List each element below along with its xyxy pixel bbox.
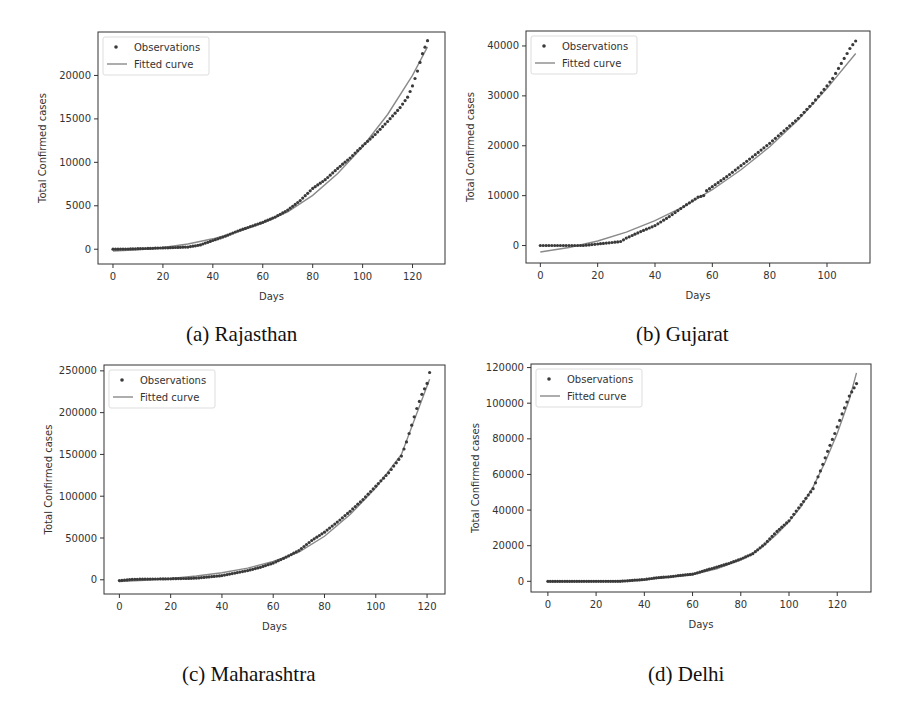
observation-point [344, 161, 347, 164]
observation-point [651, 225, 654, 228]
observation-point [539, 244, 542, 247]
chart-delhi: 0204060801001200200004000060000800001000… [450, 360, 900, 660]
observation-point [816, 475, 819, 478]
observation-point [748, 158, 751, 161]
observation-point [702, 194, 705, 197]
x-tick-label: 80 [734, 599, 747, 610]
observation-point [326, 176, 329, 179]
observation-point [708, 187, 711, 190]
observation-point [329, 174, 332, 177]
observation-point [768, 537, 771, 540]
observation-point [760, 149, 763, 152]
observation-point [415, 407, 418, 410]
observation-point [785, 521, 788, 524]
observation-point [599, 242, 602, 245]
observation-point [374, 485, 377, 488]
observation-point [326, 529, 329, 532]
y-axis-label: Total Confirmed cases [43, 425, 54, 536]
observation-point [343, 514, 346, 517]
y-tick-label: 0 [85, 244, 91, 255]
legend-fitted-curve-label: Fitted curve [140, 392, 199, 403]
observation-point [665, 217, 668, 220]
observation-point [354, 152, 357, 155]
observation-point [705, 189, 708, 192]
observation-point [642, 229, 645, 232]
observations-points [546, 382, 858, 583]
legend-observations-marker [114, 45, 118, 49]
observation-point [668, 215, 671, 218]
observation-point [851, 43, 854, 46]
observation-point [711, 185, 714, 188]
observation-point [797, 506, 800, 509]
observation-point [766, 540, 769, 543]
observation-point [819, 469, 822, 472]
observation-point [737, 166, 740, 169]
observation-point [837, 67, 840, 70]
observation-point [778, 528, 781, 531]
observation-point [613, 241, 616, 244]
x-tick-label: 40 [649, 270, 662, 281]
x-tick-label: 40 [206, 271, 219, 282]
observation-point [846, 52, 849, 55]
observation-point [428, 371, 431, 374]
observation-point [602, 242, 605, 245]
observation-point [413, 415, 416, 418]
observation-point [725, 175, 728, 178]
observation-point [367, 493, 370, 496]
observation-point [807, 494, 810, 497]
observation-point [739, 164, 742, 167]
observation-point [751, 552, 754, 555]
y-tick-label: 40000 [487, 40, 519, 51]
x-tick-label: 0 [110, 271, 116, 282]
observation-point [656, 222, 659, 225]
observation-point [384, 474, 387, 477]
observation-point [636, 231, 639, 234]
observation-point [426, 382, 429, 385]
observation-point [639, 230, 642, 233]
panel-maharashtra: 0204060801001200500001000001500002000002… [0, 360, 450, 708]
observation-point [662, 219, 665, 222]
legend-observations-label: Observations [562, 41, 628, 52]
y-tick-label: 15000 [59, 113, 91, 124]
y-tick-label: 250000 [59, 365, 97, 376]
observation-point [679, 207, 682, 210]
panel-rajasthan: 02040608010012005000100001500020000DaysT… [0, 0, 450, 360]
observation-point [659, 220, 662, 223]
y-tick-label: 0 [518, 576, 524, 587]
observation-point [619, 240, 622, 243]
x-tick-label: 20 [591, 270, 604, 281]
observation-point [787, 519, 790, 522]
observation-point [309, 189, 312, 192]
observation-point [565, 244, 568, 247]
observation-point [401, 103, 404, 106]
y-tick-label: 0 [513, 240, 519, 251]
observation-point [336, 167, 339, 170]
x-axis-label: Days [259, 291, 284, 302]
observation-point [369, 138, 372, 141]
observation-point [850, 390, 853, 393]
observation-point [775, 530, 778, 533]
x-tick-label: 40 [216, 601, 229, 612]
observation-point [734, 169, 737, 172]
observation-point [838, 419, 841, 422]
observation-point [409, 90, 412, 93]
observation-point [300, 547, 303, 550]
observation-point [553, 244, 556, 247]
observation-point [625, 237, 628, 240]
observation-point [341, 516, 344, 519]
observation-point [396, 109, 399, 112]
observation-point [853, 386, 856, 389]
observation-point [356, 149, 359, 152]
observation-point [384, 123, 387, 126]
observation-point [576, 244, 579, 247]
observation-point [792, 513, 795, 516]
observation-point [338, 518, 341, 521]
observation-point [547, 244, 550, 247]
observation-point [420, 393, 423, 396]
observation-point [831, 438, 834, 441]
observation-point [399, 106, 402, 109]
observation-point [334, 169, 337, 172]
observation-point [349, 156, 352, 159]
observation-point [812, 487, 815, 490]
observation-point [762, 146, 765, 149]
